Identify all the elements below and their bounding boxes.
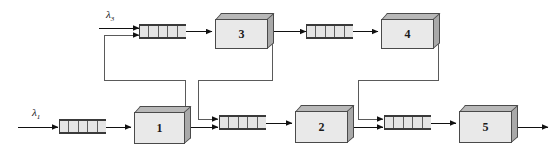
queue-cell xyxy=(316,26,325,37)
queue-cell xyxy=(98,121,106,132)
server-label: 1 xyxy=(157,122,163,134)
queue-cell xyxy=(394,117,403,128)
queue-cell xyxy=(307,26,316,37)
server-front-face: 5 xyxy=(459,111,512,143)
server-front-face: 4 xyxy=(381,19,434,49)
server-front-face: 2 xyxy=(295,111,348,143)
queue-cell xyxy=(423,117,431,128)
queueing-network-diagram: λ3 λ1 3 4 xyxy=(0,0,560,152)
queue-cell xyxy=(345,26,353,37)
server-side-face xyxy=(267,13,274,49)
server-4: 4 xyxy=(381,13,434,49)
arrival-rate-lambda-3: λ3 xyxy=(106,8,114,23)
queue-cell xyxy=(413,117,422,128)
server-label: 4 xyxy=(405,28,411,40)
server-side-face xyxy=(184,106,191,144)
server-label: 2 xyxy=(319,121,325,133)
server-2: 2 xyxy=(295,105,348,143)
server-3: 3 xyxy=(215,13,268,49)
queue-5 xyxy=(384,115,431,130)
server-5: 5 xyxy=(459,105,512,143)
queue-4 xyxy=(306,24,353,39)
queue-cell xyxy=(178,26,186,37)
queue-cell xyxy=(60,121,69,132)
queue-cell xyxy=(229,117,238,128)
queue-cell xyxy=(239,117,248,128)
queue-cell xyxy=(385,117,394,128)
queue-cell xyxy=(248,117,257,128)
server-side-face xyxy=(433,13,440,49)
queue-cell xyxy=(149,26,158,37)
server-front-face: 1 xyxy=(134,112,185,144)
queue-cell xyxy=(404,117,413,128)
queue-3 xyxy=(139,24,186,39)
queue-cell xyxy=(326,26,335,37)
server-front-face: 3 xyxy=(215,19,268,49)
queue-cell xyxy=(258,117,266,128)
server-1: 1 xyxy=(134,106,185,144)
queue-1 xyxy=(59,119,106,134)
queue-2 xyxy=(219,115,266,130)
queue-cell xyxy=(159,26,168,37)
wire-server4-to-queue5-feedback xyxy=(358,42,438,119)
queue-cell xyxy=(88,121,97,132)
server-label: 5 xyxy=(483,121,489,133)
queue-cell xyxy=(69,121,78,132)
queue-cell xyxy=(140,26,149,37)
server-side-face xyxy=(511,105,518,143)
queue-cell xyxy=(168,26,177,37)
queue-cell xyxy=(220,117,229,128)
queue-cell xyxy=(335,26,344,37)
arrival-rate-lambda-1: λ1 xyxy=(32,106,40,121)
wire-server3-to-queue2-feedback xyxy=(198,42,272,119)
server-side-face xyxy=(347,105,354,143)
server-label: 3 xyxy=(239,28,245,40)
queue-cell xyxy=(79,121,88,132)
